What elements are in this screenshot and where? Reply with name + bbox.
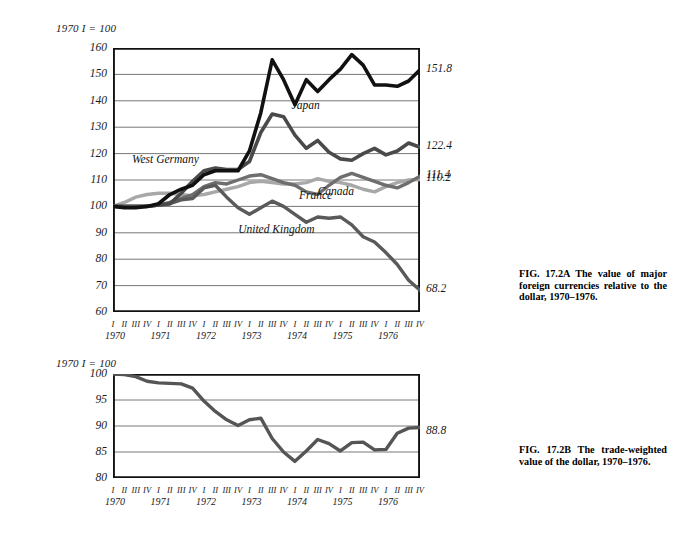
y-tick-label: 90 (73, 226, 107, 238)
y-tick-label: 100 (73, 199, 107, 211)
panel-b-svg (113, 374, 420, 478)
panel-b-plot (113, 374, 420, 478)
x-year-label: 1972 (191, 330, 221, 341)
x-year-label: 1973 (236, 496, 266, 507)
y-tick-label: 130 (73, 120, 107, 132)
y-tick-label: 160 (73, 41, 107, 53)
y-tick-label: 95 (73, 393, 107, 405)
y-tick-label: 150 (73, 67, 107, 79)
x-year-label: 1974 (282, 496, 312, 507)
end-value-label: 88.8 (426, 424, 446, 436)
x-year-label: 1976 (373, 496, 403, 507)
panel-a-caption-text: FIG. 17.2A The value of major foreign cu… (519, 268, 667, 302)
y-tick-label: 120 (73, 147, 107, 159)
y-tick-label: 100 (73, 367, 107, 379)
y-tick-label: 85 (73, 445, 107, 457)
x-year-label: 1975 (327, 330, 357, 341)
y-tick-label: 110 (73, 173, 107, 185)
figure-page: 1970 I = 100 607080901001101201301401501… (0, 0, 675, 535)
panel-a-caption: FIG. 17.2A The value of major foreign cu… (519, 268, 667, 303)
x-year-label: 1976 (373, 330, 403, 341)
x-year-label: 1970 (100, 496, 130, 507)
x-quarter-label: IV (413, 485, 427, 495)
x-year-label: 1971 (145, 496, 175, 507)
y-tick-label: 80 (73, 252, 107, 264)
series-label-canada: Canada (318, 185, 354, 197)
y-tick-label: 60 (73, 305, 107, 317)
end-value-label: 122.4 (426, 139, 452, 151)
end-value-label: 68.2 (426, 282, 446, 294)
y-tick-label: 140 (73, 94, 107, 106)
x-year-label: 1972 (191, 496, 221, 507)
series-label-united-kingdom: United Kingdom (238, 223, 314, 235)
x-year-label: 1973 (236, 330, 266, 341)
x-year-label: 1971 (145, 330, 175, 341)
panel-a-svg (113, 48, 420, 312)
y-tick-label: 80 (73, 471, 107, 483)
x-year-label: 1975 (327, 496, 357, 507)
panel-a-index-note: 1970 I = 100 (56, 22, 116, 34)
panel-a-plot (113, 48, 420, 312)
end-value-label: 151.8 (426, 62, 452, 74)
x-year-label: 1974 (282, 330, 312, 341)
series-label-west-germany: West Germany (132, 153, 199, 165)
y-tick-label: 70 (73, 279, 107, 291)
series-line-west-germany (113, 55, 420, 208)
series-line-trade-weighted-dollar (113, 374, 420, 461)
y-tick-label: 90 (73, 419, 107, 431)
end-value-label: 110.2 (426, 171, 451, 183)
panel-b-caption: FIG. 17.2B The trade-weighted value of t… (519, 444, 667, 467)
series-label-japan: Japan (292, 99, 320, 111)
x-quarter-label: IV (413, 319, 427, 329)
x-year-label: 1970 (100, 330, 130, 341)
panel-b-caption-text: FIG. 17.2B The trade-weighted value of t… (519, 444, 667, 467)
